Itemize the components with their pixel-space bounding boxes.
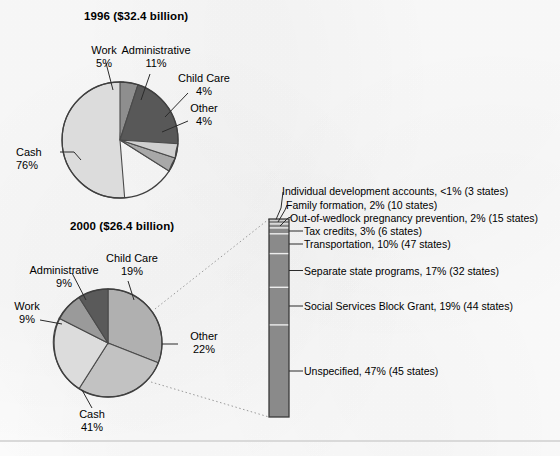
bar-callout-individual-development-accounts: Individual development accounts, <1% (3 … <box>282 185 508 197</box>
pie-2000-label-administrative-value: 9% <box>20 277 108 290</box>
figure-canvas: 1996 ($32.4 billion) Work 5% Administrat… <box>0 0 560 456</box>
pie-2000-label-cash: Cash 41% <box>68 408 116 433</box>
pie-2000-label-other-text: Other <box>180 330 228 343</box>
pie-2000-title: 2000 ($26.4 billion) <box>70 220 174 232</box>
bar-callout-social-services-block-grant: Social Services Block Grant, 19% (44 sta… <box>304 300 513 312</box>
bar-callout-family-formation: Family formation, 2% (10 states) <box>286 199 437 211</box>
explosion-connector-bottom <box>151 382 269 417</box>
bar-callout-transportation: Transportation, 10% (47 states) <box>304 238 451 250</box>
pie-1996-label-other-value: 4% <box>176 115 232 128</box>
pie-1996-label-administrative-text: Administrative <box>112 44 200 57</box>
pie-2000-label-work-text: Work <box>2 300 52 313</box>
explosion-connectors <box>151 219 269 417</box>
pie-1996-label-cash-text: Cash <box>16 146 64 159</box>
pie-2000-label-work: Work 9% <box>2 300 52 325</box>
pie-1996-title: 1996 ($32.4 billion) <box>84 10 188 22</box>
pie-2000-label-cash-text: Cash <box>68 408 116 421</box>
pie-1996-label-other-text: Other <box>176 102 232 115</box>
explosion-connector-top <box>155 219 269 309</box>
pie-1996-label-administrative-value: 11% <box>112 57 200 70</box>
pie-1996-label-child-care-text: Child Care <box>168 72 240 85</box>
pie-1996-label-other: Other 4% <box>176 102 232 127</box>
pie-1996-label-cash-value: 76% <box>16 159 64 172</box>
pie-2000-label-work-value: 9% <box>2 313 52 326</box>
pie-1996-label-administrative: Administrative 11% <box>112 44 200 69</box>
pie-1996-label-child-care: Child Care 4% <box>168 72 240 97</box>
bar-callout-unspecified: Unspecified, 47% (45 states) <box>304 365 438 377</box>
footer-rule <box>0 440 560 442</box>
bar-callout-out-of-wedlock-pregnancy-prevention: Out-of-wedlock pregnancy prevention, 2% … <box>290 212 538 224</box>
bar-callout-tax-credits: Tax credits, 3% (6 states) <box>304 225 422 237</box>
bar-body <box>269 219 289 417</box>
pie-1996-label-cash: Cash 76% <box>16 146 64 171</box>
pie-2000 <box>53 289 162 397</box>
pie-1996 <box>62 82 178 198</box>
pie-1996-slice-cash <box>62 82 125 198</box>
pie-2000-label-administrative-text: Administrative <box>20 264 108 277</box>
pie-1996-label-child-care-value: 4% <box>168 85 240 98</box>
other-breakdown-bar <box>269 219 289 417</box>
pie-2000-label-other-value: 22% <box>180 343 228 356</box>
bar-callout-separate-state-programs: Separate state programs, 17% (32 states) <box>304 265 499 277</box>
pie-2000-label-cash-value: 41% <box>68 421 116 434</box>
pie-2000-label-other: Other 22% <box>180 330 228 355</box>
pie-2000-label-child-care-text: Child Care <box>96 252 168 265</box>
pie-2000-label-administrative: Administrative 9% <box>20 264 108 289</box>
